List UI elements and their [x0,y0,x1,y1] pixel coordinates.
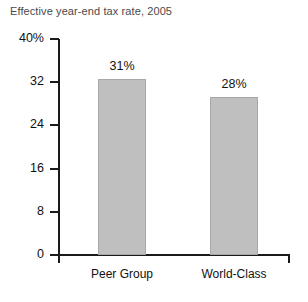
x-axis-category-peer-group: Peer Group [62,268,182,280]
y-axis-line [58,39,60,256]
y-axis-tick-label-24: 24 [0,118,44,131]
x-axis-category-world-class: World-Class [174,268,294,280]
y-axis-tick-label-32: 32 [0,75,44,88]
x-axis-left-cap [58,254,60,263]
bar-value-world-class: 28% [189,78,279,91]
plot-area: 40% 32 24 16 8 0 31% Peer Group 28% Worl… [0,0,308,302]
y-axis-tick-24 [50,124,59,126]
bar-peer-group [98,79,146,255]
x-axis-right-cap [288,254,290,263]
y-axis-tick-32 [50,81,59,83]
y-axis-tick-40 [50,38,59,40]
y-axis-tick-label-0: 0 [0,248,44,261]
y-axis-tick-16 [50,168,59,170]
bar-value-peer-group: 31% [77,60,167,73]
y-axis-tick-label-40: 40% [0,32,44,45]
y-axis-tick-8 [50,211,59,213]
y-axis-tick-label-16: 16 [0,162,44,175]
bar-world-class [210,97,258,255]
chart-container: Effective year-end tax rate, 2005 40% 32… [0,0,308,302]
y-axis-tick-label-8: 8 [0,205,44,218]
